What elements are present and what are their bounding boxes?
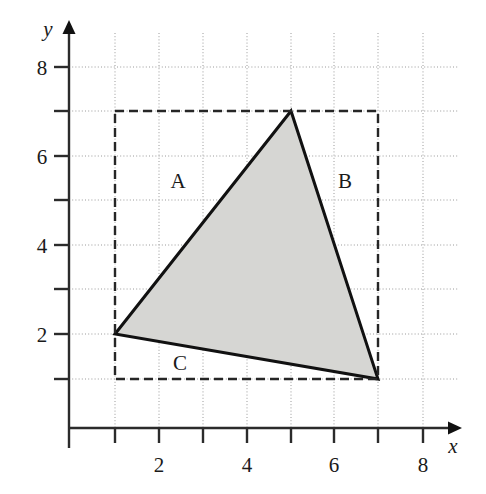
- plot-svg: 8 6 4 2 2 4 6 8 y x A B C: [0, 0, 486, 494]
- x-axis-ticks: [115, 428, 423, 443]
- y-tick-label-2: 2: [37, 323, 48, 347]
- x-axis-label: x: [447, 434, 458, 458]
- x-tick-label-8: 8: [418, 453, 429, 477]
- region-label-b: B: [338, 169, 352, 193]
- y-axis-label: y: [41, 17, 53, 41]
- y-tick-label-6: 6: [37, 145, 48, 169]
- coordinate-plane-figure: 8 6 4 2 2 4 6 8 y x A B C: [0, 0, 486, 494]
- x-tick-label-4: 4: [242, 453, 253, 477]
- region-label-c: C: [173, 351, 187, 375]
- y-tick-label-4: 4: [37, 234, 48, 258]
- arrow-up-icon: [63, 20, 76, 34]
- region-label-a: A: [170, 169, 186, 193]
- y-tick-label-8: 8: [37, 56, 48, 80]
- arrow-right-icon: [448, 422, 462, 435]
- y-tick-labels: 8 6 4 2: [37, 56, 48, 347]
- x-tick-label-6: 6: [329, 453, 340, 477]
- x-tick-labels: 2 4 6 8: [154, 453, 429, 477]
- x-tick-label-2: 2: [154, 453, 165, 477]
- y-axis-ticks: [54, 67, 69, 379]
